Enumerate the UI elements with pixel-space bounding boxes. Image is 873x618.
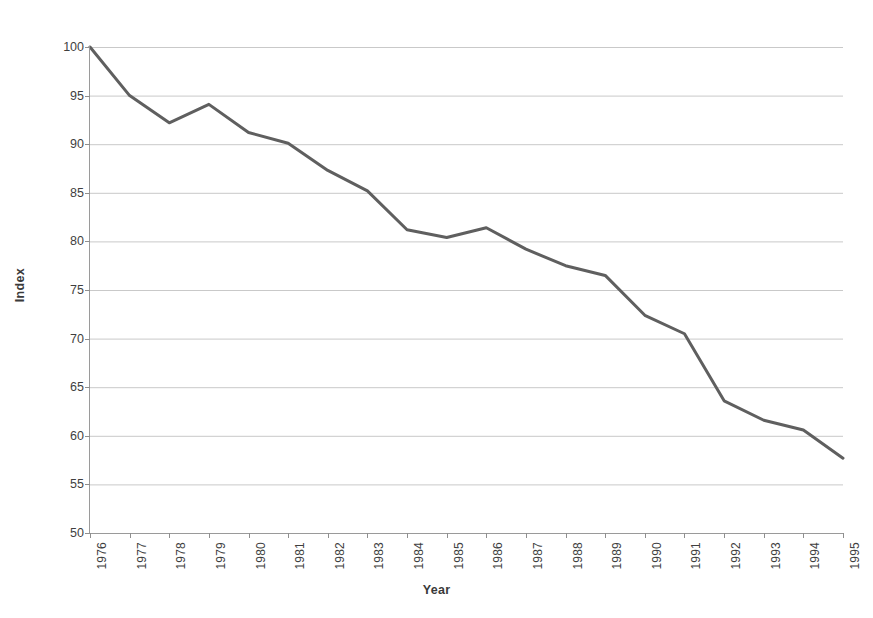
x-tick-label-1986: 1986	[491, 542, 505, 570]
x-tick-mark-1976	[90, 533, 91, 538]
y-tick-mark-55	[85, 484, 90, 485]
y-axis-tick-labels: 50556065707580859095100	[38, 0, 84, 618]
x-tick-mark-1987	[526, 533, 527, 538]
y-tick-label-80: 80	[44, 235, 84, 248]
x-tick-label-1995: 1995	[848, 542, 862, 570]
x-tick-mark-1992	[724, 533, 725, 538]
x-tick-label-1992: 1992	[729, 542, 743, 570]
y-tick-mark-70	[85, 339, 90, 340]
x-tick-mark-1988	[566, 533, 567, 538]
y-tick-label-50: 50	[44, 527, 84, 540]
x-tick-mark-1984	[407, 533, 408, 538]
y-axis-title: Index	[13, 268, 27, 302]
x-tick-label-1982: 1982	[333, 542, 347, 570]
line-chart: 50556065707580859095100 1976197719781979…	[0, 0, 873, 618]
x-tick-mark-1989	[605, 533, 606, 538]
x-tick-label-1985: 1985	[452, 542, 466, 570]
y-tick-mark-85	[85, 193, 90, 194]
x-tick-mark-1977	[130, 533, 131, 538]
x-tick-label-1981: 1981	[293, 542, 307, 570]
x-tick-label-1977: 1977	[135, 542, 149, 570]
x-tick-mark-1982	[328, 533, 329, 538]
x-tick-mark-1978	[169, 533, 170, 538]
x-tick-mark-1995	[843, 533, 844, 538]
x-tick-label-1979: 1979	[214, 542, 228, 570]
x-tick-label-1978: 1978	[174, 542, 188, 570]
x-tick-mark-1985	[447, 533, 448, 538]
y-tick-label-95: 95	[44, 90, 84, 103]
x-tick-label-1983: 1983	[372, 542, 386, 570]
x-tick-label-1989: 1989	[610, 542, 624, 570]
y-tick-label-85: 85	[44, 187, 84, 200]
x-tick-mark-1986	[486, 533, 487, 538]
data-line-index	[90, 47, 843, 458]
x-tick-mark-1979	[209, 533, 210, 538]
x-tick-mark-1980	[249, 533, 250, 538]
y-tick-label-55: 55	[44, 478, 84, 491]
y-tick-label-70: 70	[44, 333, 84, 346]
y-tick-mark-95	[85, 96, 90, 97]
x-tick-label-1993: 1993	[769, 542, 783, 570]
y-tick-label-75: 75	[44, 284, 84, 297]
plot-canvas	[90, 47, 843, 533]
gridlines	[90, 48, 843, 534]
x-tick-mark-1991	[684, 533, 685, 538]
x-tick-label-1987: 1987	[531, 542, 545, 570]
x-axis-title: Year	[0, 583, 873, 597]
x-tick-label-1994: 1994	[808, 542, 822, 570]
x-tick-label-1980: 1980	[254, 542, 268, 570]
x-tick-label-1976: 1976	[95, 542, 109, 570]
x-axis-line	[89, 533, 843, 534]
y-tick-label-60: 60	[44, 430, 84, 443]
x-tick-mark-1993	[764, 533, 765, 538]
x-tick-mark-1990	[645, 533, 646, 538]
x-tick-mark-1994	[803, 533, 804, 538]
y-tick-label-90: 90	[44, 138, 84, 151]
y-tick-label-65: 65	[44, 381, 84, 394]
x-tick-mark-1981	[288, 533, 289, 538]
y-tick-mark-60	[85, 436, 90, 437]
x-tick-mark-1983	[367, 533, 368, 538]
y-tick-mark-65	[85, 387, 90, 388]
x-tick-label-1990: 1990	[650, 542, 664, 570]
x-tick-label-1988: 1988	[571, 542, 585, 570]
y-tick-mark-100	[85, 47, 90, 48]
x-tick-label-1984: 1984	[412, 542, 426, 570]
y-tick-label-100: 100	[44, 41, 84, 54]
y-tick-mark-75	[85, 290, 90, 291]
x-tick-label-1991: 1991	[689, 542, 703, 570]
y-tick-mark-80	[85, 241, 90, 242]
y-tick-mark-90	[85, 144, 90, 145]
plot-area	[90, 47, 843, 533]
